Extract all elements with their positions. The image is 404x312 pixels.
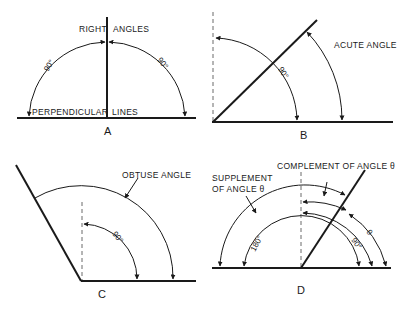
panel-label-d: D [297,284,305,296]
angle-label-90-d: 90° [349,236,363,251]
panel-d: COMPLEMENT OF ANGLE θ SUPPLEMENT OF ANGL… [212,161,395,296]
label-right: RIGHT [79,24,107,34]
angled-line-b [213,20,317,122]
panel-b: ACUTE ANGLE 90° B [212,12,397,141]
label-perpendicular: PERPENDICULAR [32,107,108,117]
angled-line-c [16,165,81,281]
obtuse-angle-arc [35,186,173,279]
supplement-arc [220,185,345,266]
label-obtuse-angle: OBTUSE ANGLE [122,170,191,180]
panel-label-b: B [300,129,307,141]
label-lines: LINES [112,107,138,117]
label-supplement: SUPPLEMENT [212,173,273,183]
panel-label-a: A [104,125,112,137]
supplement-leader [246,196,256,213]
right-angle-arc-right [109,42,185,116]
label-acute-angle: ACUTE ANGLE [334,40,397,50]
panel-c: OBTUSE ANGLE 90° C [16,165,196,300]
label-of-angle-theta: OF ANGLE θ [212,184,265,194]
panel-a: RIGHT ANGLES PERPENDICULAR LINES 90° 90°… [17,17,196,137]
angle-label-90-left: 90° [42,58,56,73]
label-complement: COMPLEMENT OF ANGLE θ [277,161,395,171]
angle-label-90-right: 90° [155,56,170,71]
angle-label-theta: θ [364,228,374,237]
right-angle-arc-left [29,42,105,116]
angle-label-90-b: 90° [276,65,290,80]
angle-label-180: 180° [249,234,265,253]
label-angles: ANGLES [113,24,149,34]
panel-label-c: C [98,288,106,300]
angle-90-arc-d [303,213,372,266]
obtuse-leader [125,178,138,198]
complement-leader [324,182,327,196]
right-angle-arc-c [84,224,137,279]
angles-diagram: RIGHT ANGLES PERPENDICULAR LINES 90° 90°… [0,0,404,312]
